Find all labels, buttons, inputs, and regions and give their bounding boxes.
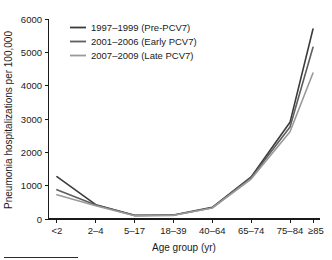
x-tick-label-18-39: 18–39 (160, 225, 186, 236)
x-axis-title: Age group (yr) (152, 242, 216, 253)
legend-label-late-pcv7: 2007–2009 (Late PCV7) (91, 50, 193, 61)
x-tick-label-40-64: 40–64 (199, 225, 225, 236)
y-tick-label-4000: 4000 (21, 80, 42, 91)
axis-lines (49, 19, 321, 219)
x-tick-label-under-2: <2 (51, 225, 62, 236)
x-tick-label-75-84: 75–84 (277, 225, 303, 236)
y-axis-title: Pneumonia hospitalizations per 100,000 (3, 31, 14, 209)
y-axis-title-group: Pneumonia hospitalizations per 100,000 (3, 31, 14, 209)
x-tick-label-5-17: 5–17 (124, 225, 145, 236)
y-axis-tick-labels: 6000 5000 4000 3000 2000 1000 0 (21, 14, 42, 225)
series-line-early-pcv7 (57, 47, 313, 215)
x-tick-label-85-plus: ≥85 (308, 225, 324, 236)
x-tick-label-2-4: 2–4 (88, 225, 104, 236)
y-tick-label-0: 0 (37, 214, 42, 225)
y-tick-label-5000: 5000 (21, 47, 42, 58)
y-tick-label-1000: 1000 (21, 180, 42, 191)
legend-label-early-pcv7: 2001–2006 (Early PCV7) (91, 36, 197, 47)
x-axis-ticks (57, 219, 313, 223)
y-tick-label-3000: 3000 (21, 114, 42, 125)
legend-label-pre-pcv7: 1997–1999 (Pre-PCV7) (91, 22, 190, 33)
y-tick-label-2000: 2000 (21, 147, 42, 158)
pneumonia-hospitalization-line-chart: Pneumonia hospitalizations per 100,000 6… (0, 0, 332, 260)
figure-container: Pneumonia hospitalizations per 100,000 6… (0, 0, 332, 260)
y-axis-ticks (45, 19, 49, 219)
x-axis-tick-labels: <2 2–4 5–17 18–39 40–64 65–74 75–84 ≥85 (51, 225, 323, 236)
x-tick-label-65-74: 65–74 (238, 225, 264, 236)
y-tick-label-6000: 6000 (21, 14, 42, 25)
legend: 1997–1999 (Pre-PCV7) 2001–2006 (Early PC… (70, 22, 197, 61)
